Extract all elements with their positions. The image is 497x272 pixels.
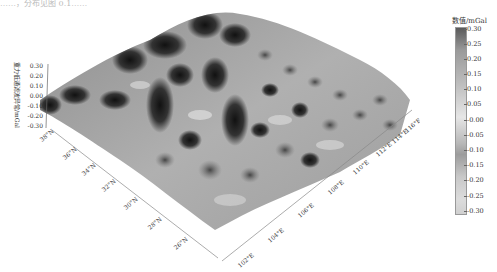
colorbar-tick: -0.10 xyxy=(467,146,484,154)
z-tick: 0.00 xyxy=(30,92,44,99)
colorbar-tick: -0.00 xyxy=(467,116,484,124)
y-tick: 36°N xyxy=(61,145,78,161)
colorbar-tick: 0.25 xyxy=(467,40,481,48)
x-tick: 106°E xyxy=(296,201,315,218)
colorbar-tick: -0.30 xyxy=(467,207,484,215)
z-tick: -0.20 xyxy=(28,112,44,119)
colorbar-tick: 0.20 xyxy=(467,55,481,63)
y-tick: 30°N xyxy=(122,195,139,211)
y-tick: 32°N xyxy=(100,177,117,193)
z-axis: 0.30 0.20 0.10 0.00 -0.10 -0.20 -0.30 重力… xyxy=(13,62,48,129)
colorbar-tick: -0.05 xyxy=(467,131,484,139)
colorbar-tick: 0.15 xyxy=(467,70,481,78)
z-tick: -0.30 xyxy=(28,122,44,129)
z-tick: 0.30 xyxy=(30,62,44,69)
colorbar-tick: -0.25 xyxy=(467,192,484,200)
y-tick: 26°N xyxy=(172,235,189,251)
colorbar-tick: -0.20 xyxy=(467,176,484,184)
colorbar-tick: 0.05 xyxy=(467,100,481,108)
x-tick: 102°E xyxy=(236,251,255,268)
colorbar-tick: 0.30 xyxy=(467,25,481,33)
colorbar-tick: -0.15 xyxy=(467,161,484,169)
z-tick: 0.10 xyxy=(30,82,44,89)
x-tick: 108°E xyxy=(326,178,345,195)
colorbar xyxy=(455,27,467,215)
x-tick: 104°E xyxy=(266,226,285,243)
z-tick: 0.20 xyxy=(30,72,44,79)
y-tick: 34°N xyxy=(80,161,97,177)
surface-plot: 0.30 0.20 0.10 0.00 -0.10 -0.20 -0.30 重力… xyxy=(0,0,420,272)
colorbar-title: 数值/mGal xyxy=(452,15,487,25)
gravity-surface xyxy=(0,0,420,272)
colorbar-tick: 0.10 xyxy=(467,85,481,93)
x-tick: 116°E xyxy=(403,116,420,133)
y-tick: 38°N xyxy=(38,127,55,143)
z-tick: -0.10 xyxy=(28,102,44,109)
z-axis-label: 重力低通滤波异常/mGal xyxy=(13,62,21,128)
y-tick: 28°N xyxy=(146,215,163,231)
